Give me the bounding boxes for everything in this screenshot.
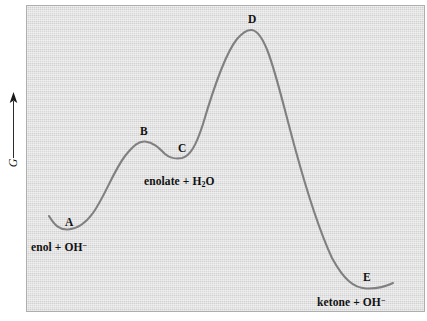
point-label-e: E xyxy=(363,271,371,283)
point-label-c: C xyxy=(178,142,187,154)
y-axis: G xyxy=(0,0,26,321)
reactant-label: enol + OH− xyxy=(31,241,87,253)
reactant-text: enol + OH xyxy=(31,241,83,253)
energy-profile-curve xyxy=(27,6,425,312)
product-charge: − xyxy=(381,296,386,305)
product-label: ketone + OH− xyxy=(317,296,386,308)
reaction-energy-diagram: G A B C D E enol + OH− enolate + H2O ket… xyxy=(0,0,427,321)
up-arrow-icon xyxy=(9,92,18,158)
point-label-d: D xyxy=(248,13,257,25)
plot-area: A B C D E enol + OH− enolate + H2O keton… xyxy=(26,5,425,312)
intermediate-text-post: O xyxy=(206,175,215,187)
reactant-charge: − xyxy=(83,241,88,250)
y-axis-label: G xyxy=(2,152,24,174)
point-label-b: B xyxy=(140,125,148,137)
point-label-a: A xyxy=(65,216,74,228)
product-text: ketone + OH xyxy=(317,296,381,308)
intermediate-label: enolate + H2O xyxy=(144,175,215,189)
intermediate-text-pre: enolate + H xyxy=(144,175,201,187)
